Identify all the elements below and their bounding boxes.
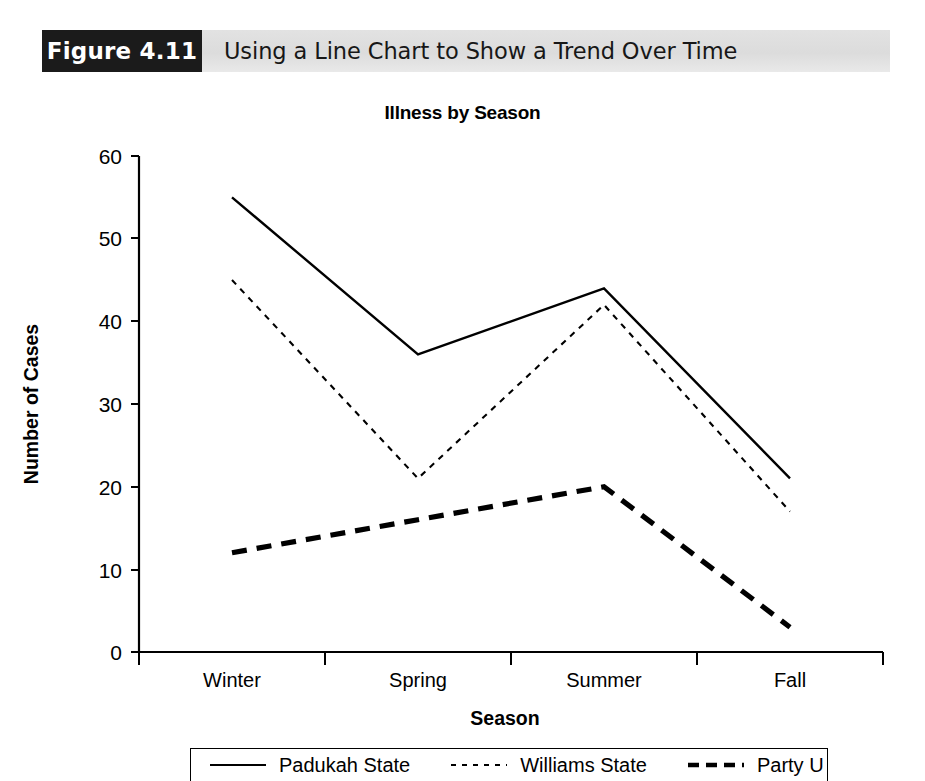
line-chart-plot: 60 50 40 30 20 10 0 Winter Spring Summer… bbox=[0, 85, 925, 725]
y-tick-label-0: 0 bbox=[110, 641, 122, 664]
x-tick-label-winter: Winter bbox=[203, 669, 261, 691]
y-tick-label-40: 40 bbox=[99, 310, 122, 333]
y-tick-label-10: 10 bbox=[99, 559, 122, 582]
y-tick-label-20: 20 bbox=[99, 476, 122, 499]
legend-item-williams-state: Williams State bbox=[450, 754, 647, 777]
legend-item-padukah-state: Padukah State bbox=[209, 754, 410, 777]
chart-figure: Illness by Season 60 50 40 30 20 10 0 bbox=[0, 85, 925, 725]
x-tick-label-spring: Spring bbox=[389, 669, 447, 691]
x-axis-ticks bbox=[139, 652, 883, 665]
y-axis-title: Number of Cases bbox=[20, 324, 42, 485]
y-axis-ticks bbox=[131, 156, 139, 652]
y-tick-label-50: 50 bbox=[99, 227, 122, 250]
figure-number-badge: Figure 4.11 bbox=[42, 30, 202, 72]
figure-caption-bar: Figure 4.11 Using a Line Chart to Show a… bbox=[42, 30, 890, 72]
x-tick-label-summer: Summer bbox=[566, 669, 642, 691]
legend-item-party-u: Party U bbox=[687, 754, 824, 777]
figure-caption-title: Using a Line Chart to Show a Trend Over … bbox=[202, 30, 890, 72]
legend-label-party-u: Party U bbox=[757, 754, 824, 777]
x-tick-label-fall: Fall bbox=[774, 669, 806, 691]
series-line-padukah-state bbox=[232, 197, 790, 478]
legend-swatch-solid-icon bbox=[209, 758, 267, 772]
legend-label-williams-state: Williams State bbox=[520, 754, 647, 777]
chart-legend: Padukah State Williams State Party U bbox=[190, 748, 828, 781]
series-line-williams-state bbox=[232, 280, 790, 512]
series-line-party-u bbox=[232, 487, 790, 628]
legend-label-padukah-state: Padukah State bbox=[279, 754, 410, 777]
y-tick-label-60: 60 bbox=[99, 145, 122, 168]
legend-swatch-dotted-icon bbox=[450, 758, 508, 772]
legend-swatch-dashed-thick-icon bbox=[687, 758, 745, 772]
y-tick-label-30: 30 bbox=[99, 393, 122, 416]
x-axis-title: Season bbox=[470, 707, 539, 725]
